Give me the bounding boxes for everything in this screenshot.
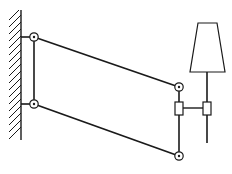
linkage-diagram: Parallelogram wall-mounted lamp linkage	[0, 0, 232, 174]
pivot-bottom-left	[30, 100, 38, 108]
pivot-top-left	[30, 33, 38, 41]
diagram-canvas	[0, 0, 232, 174]
slider-right-link	[175, 102, 183, 115]
slider-lamp-pole	[203, 102, 211, 115]
lamp-shade	[190, 23, 225, 72]
pivot-bottom-right	[175, 152, 183, 160]
wall-hatching	[9, 8, 21, 139]
pivot-top-right	[175, 83, 183, 91]
wall	[9, 8, 21, 140]
bottom-bar	[34, 104, 179, 156]
top-bar	[34, 37, 179, 87]
